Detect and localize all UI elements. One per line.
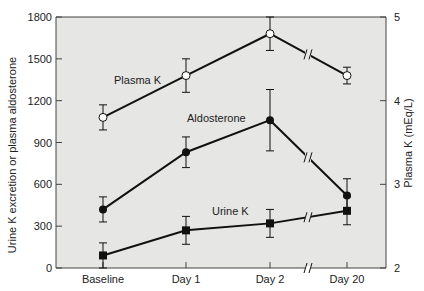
- marker-filled-circle: [182, 148, 190, 156]
- y-tick-label: 0: [46, 262, 52, 274]
- marker-filled-square: [99, 251, 107, 259]
- right-y-axis-title: Plasma K (mEq/L): [402, 98, 414, 187]
- marker-filled-square: [266, 219, 274, 227]
- marker-open-circle: [99, 113, 107, 121]
- y-tick-label: 1800: [28, 11, 52, 23]
- y2-tick-label: 2: [394, 262, 400, 274]
- x-tick-label: Day 20: [330, 273, 365, 285]
- plot-area: [56, 17, 386, 268]
- y-tick-label: 600: [34, 178, 52, 190]
- aldosterone-label: Aldosterone: [187, 112, 246, 124]
- x-tick-label: Day 1: [172, 273, 201, 285]
- urine-k-label: Urine K: [212, 205, 249, 217]
- chart: BaselineDay 1Day 2Day 20 030060090012001…: [0, 0, 424, 291]
- y-tick-label: 300: [34, 220, 52, 232]
- y-tick-label: 900: [34, 137, 52, 149]
- y2-tick-label: 5: [394, 11, 400, 23]
- left-y-axis-title: Urine K excretion or plasma aldosterone: [6, 57, 18, 253]
- marker-open-circle: [266, 30, 274, 38]
- y2-tick-label: 3: [394, 178, 400, 190]
- y-tick-label: 1500: [28, 53, 52, 65]
- plasma-k-label: Plasma K: [114, 74, 162, 86]
- marker-filled-circle: [99, 205, 107, 213]
- marker-filled-circle: [266, 116, 274, 124]
- marker-filled-square: [343, 207, 351, 215]
- x-tick-label: Day 2: [256, 273, 285, 285]
- y-tick-label: 1200: [28, 95, 52, 107]
- marker-open-circle: [343, 72, 351, 80]
- x-tick-label: Baseline: [82, 273, 124, 285]
- marker-filled-square: [182, 226, 190, 234]
- y2-tick-label: 4: [394, 95, 400, 107]
- marker-open-circle: [182, 72, 190, 80]
